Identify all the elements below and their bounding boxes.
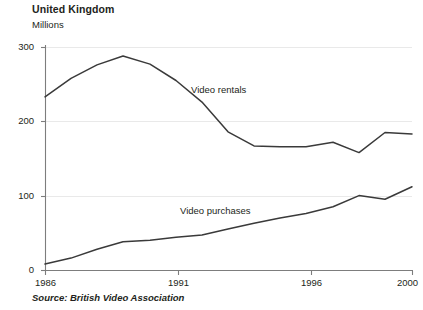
chart-figure: United Kingdom Millions [0,0,423,310]
x-tick-label-1991: 1991 [168,277,189,288]
y-axis [41,45,46,271]
source-note: Source: British Video Association [32,292,184,303]
series-line-video-rentals [45,56,412,153]
gridlines [46,48,412,197]
series-label-video-purchases: Video purchases [180,205,251,216]
x-axis [45,271,413,276]
x-tick-label-1986: 1986 [35,277,56,288]
y-tick-label-300: 300 [6,41,34,52]
chart-svg [0,0,423,290]
y-tick-label-200: 200 [6,115,34,126]
x-tick-label-2000: 2000 [397,277,418,288]
series-label-video-rentals: Video rentals [191,84,246,95]
y-tick-label-0: 0 [6,264,34,275]
x-tick-label-1996: 1996 [301,277,322,288]
y-tick-label-100: 100 [6,190,34,201]
plot-area: 300 200 100 0 1986 1991 1996 2000 Video … [0,0,423,290]
series-line-video-purchases [45,187,412,264]
